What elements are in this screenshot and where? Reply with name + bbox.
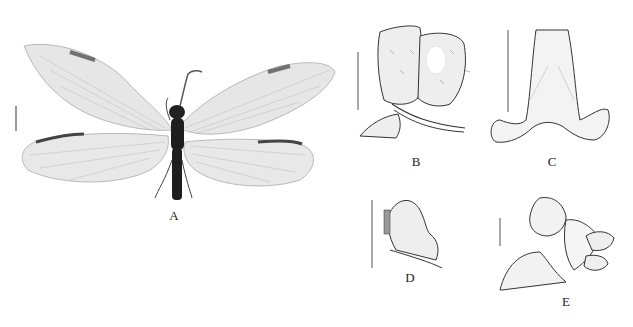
panel-label-a: A [164,208,184,224]
drawing-d [370,190,480,327]
panel-b-terminalia-lateral: B [340,20,490,200]
insect-habitus-image [0,30,345,270]
panel-label-c: C [542,154,562,170]
panel-label-e: E [556,294,576,310]
drawing-b [340,20,490,200]
panel-label-b: B [406,154,426,170]
drawing-c [490,20,633,200]
peg-row [384,210,390,234]
panel-c-sclerite: C [490,20,633,200]
panel-label-d: D [400,270,420,286]
panel-d-lobe: D [370,190,480,327]
panel-a-habitus: A [0,30,345,270]
panel-e-terminalia: E [490,190,633,327]
